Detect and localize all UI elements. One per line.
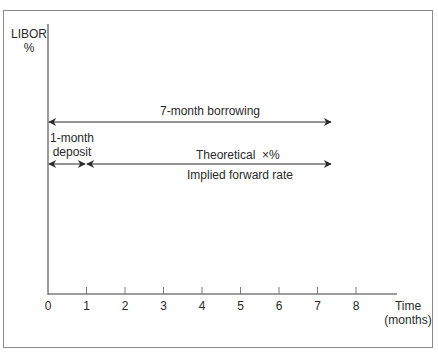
x-tick-1: 1 — [80, 299, 94, 313]
deposit-label-line2: deposit — [48, 145, 96, 159]
x-tick-6: 6 — [272, 299, 286, 313]
x-axis-label: Time (months) — [378, 299, 438, 327]
x-axis-label-line2: (months) — [378, 313, 438, 327]
x-tick-3: 3 — [157, 299, 171, 313]
y-axis-label-line2: % — [10, 41, 48, 55]
x-tick-2: 2 — [118, 299, 132, 313]
x-tick-0: 0 — [41, 299, 55, 313]
deposit-label: 1-month deposit — [48, 131, 96, 159]
x-axis-ticks — [87, 287, 357, 294]
borrowing-label: 7-month borrowing — [130, 104, 290, 118]
y-axis-label: LIBOR % — [10, 27, 48, 55]
x-tick-7: 7 — [311, 299, 325, 313]
x-tick-4: 4 — [195, 299, 209, 313]
x-tick-8: 8 — [349, 299, 363, 313]
y-axis-label-line1: LIBOR — [10, 27, 48, 41]
forward-rate-bottom-label: Implied forward rate — [160, 168, 320, 182]
x-tick-5: 5 — [234, 299, 248, 313]
x-axis-label-line1: Time — [378, 299, 438, 313]
deposit-label-line1: 1-month — [48, 131, 96, 145]
forward-rate-top-label: Theoretical ×% — [196, 148, 280, 162]
